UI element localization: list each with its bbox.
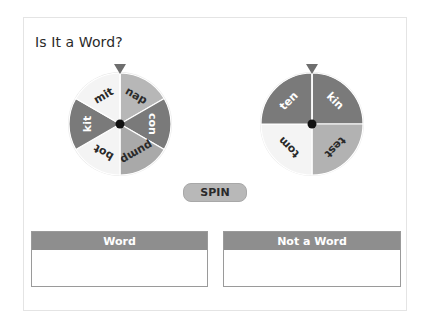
page-title: Is It a Word? [35, 34, 123, 50]
wheel-segment-label: con [146, 113, 159, 135]
not-a-word-bin[interactable]: Not a Word [223, 231, 401, 287]
word-bin-header: Word [32, 232, 207, 250]
not-a-word-bin-header: Not a Word [224, 232, 400, 250]
spin-button[interactable]: SPIN [183, 183, 247, 202]
right-spinner-wheel[interactable]: kintesttomten [258, 62, 366, 180]
not-a-word-bin-dropzone[interactable] [224, 250, 400, 286]
wheel-hub-icon [116, 120, 125, 129]
wheel-segment-label: kit [81, 116, 94, 132]
left-spinner-wheel[interactable]: napconpumpbotkitmit [66, 62, 174, 180]
wheel-hub-icon [308, 120, 317, 129]
word-bin[interactable]: Word [31, 231, 208, 287]
word-bin-dropzone[interactable] [32, 250, 207, 286]
